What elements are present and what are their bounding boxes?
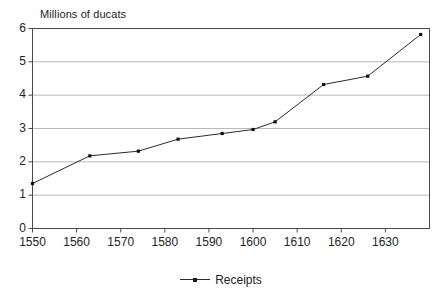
y-axis-tick-label: 2: [0, 154, 26, 168]
data-point: [31, 182, 34, 185]
data-point: [366, 75, 369, 78]
data-point: [419, 33, 422, 36]
y-axis-tick-label: 3: [0, 121, 26, 135]
data-point: [274, 120, 277, 123]
plot-area: [0, 0, 442, 301]
y-axis-tick-label: 1: [0, 187, 26, 201]
x-axis-tick-label: 1610: [274, 235, 320, 249]
x-axis-tick-label: 1580: [142, 235, 188, 249]
legend-entry-receipts: Receipts: [180, 272, 262, 287]
legend-line-marker-icon: [180, 275, 210, 285]
x-axis-tick-label: 1560: [54, 235, 100, 249]
x-axis-tick-label: 1570: [98, 235, 144, 249]
x-axis-tick-label: 1550: [10, 235, 56, 249]
y-axis-title: Millions of ducats: [40, 8, 126, 20]
y-axis-tick-label: 0: [0, 221, 26, 235]
legend-label: Receipts: [215, 273, 262, 287]
x-axis-tick-label: 1600: [230, 235, 276, 249]
data-point: [137, 150, 140, 153]
x-axis-tick-label: 1630: [362, 235, 408, 249]
data-point: [251, 128, 254, 131]
y-axis-tick-label: 5: [0, 54, 26, 68]
y-axis-ticks: [29, 29, 33, 229]
x-axis-tick-label: 1620: [318, 235, 364, 249]
series-line: [33, 35, 421, 184]
line-chart: Millions of ducats 6543210 1550156015701…: [0, 0, 442, 301]
data-point: [88, 154, 91, 157]
x-axis-ticks: [33, 229, 386, 233]
data-point: [322, 83, 325, 86]
x-axis-tick-label: 1590: [186, 235, 232, 249]
chart-legend: Receipts: [0, 272, 442, 287]
y-axis-tick-label: 6: [0, 21, 26, 35]
gridlines: [33, 62, 430, 195]
y-axis-tick-label: 4: [0, 87, 26, 101]
data-point: [221, 132, 224, 135]
data-point: [176, 138, 179, 141]
